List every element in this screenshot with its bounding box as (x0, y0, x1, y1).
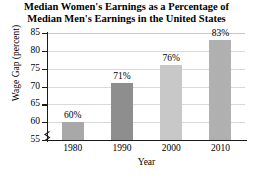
x-tick-label: 1990 (102, 143, 142, 153)
bar-2010 (209, 40, 231, 140)
y-tick-mark (42, 87, 48, 88)
chart-title: Median Women's Earnings as a Percentage … (0, 1, 253, 25)
chart-title-line-1: Median Women's Earnings as a Percentage … (0, 1, 253, 13)
x-tick-label: 2010 (200, 143, 240, 153)
x-axis-line (44, 140, 247, 141)
y-tick-label: 85 (16, 28, 40, 38)
bar-1990 (111, 83, 133, 140)
bar-1980 (62, 122, 84, 140)
y-tick-mark (42, 122, 48, 123)
chart-figure: Median Women's Earnings as a Percentage … (0, 0, 253, 184)
y-tick-mark (42, 104, 48, 105)
y-tick-label: 60 (16, 117, 40, 127)
y-tick-label: 75 (16, 64, 40, 74)
y-tick-label: 70 (16, 82, 40, 92)
bar-value-label: 71% (102, 71, 142, 81)
y-tick-label: 65 (16, 99, 40, 109)
x-axis-title: Year (48, 157, 245, 167)
bar-value-label: 83% (200, 28, 240, 38)
y-tick-mark (42, 140, 48, 141)
y-tick-mark (42, 69, 48, 70)
plot-area: 60%71%76%83% (48, 33, 245, 140)
bar-value-label: 76% (151, 53, 191, 63)
x-tick-label: 2000 (151, 143, 191, 153)
x-tick-label: 1980 (53, 143, 93, 153)
y-tick-label: 55 (16, 135, 40, 145)
y-tick-label: 80 (16, 46, 40, 56)
y-tick-mark (42, 33, 48, 34)
bar-value-label: 60% (53, 110, 93, 120)
y-tick-mark (42, 51, 48, 52)
chart-title-line-2: Median Men's Earnings in the United Stat… (0, 13, 253, 25)
bar-2000 (160, 65, 182, 140)
